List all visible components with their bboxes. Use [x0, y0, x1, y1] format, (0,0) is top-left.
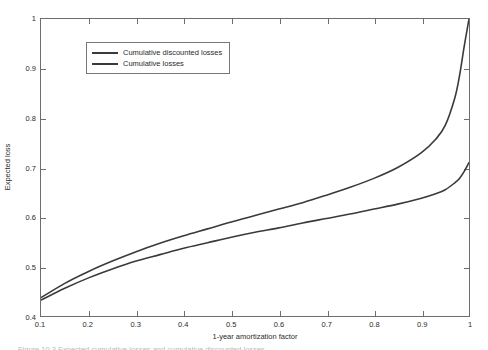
- x-tick-label: 0.8: [369, 320, 379, 329]
- legend: Cumulative discounted losses Cumulative …: [86, 42, 230, 74]
- figure-canvas: Expected loss 1-year amortization factor…: [0, 0, 488, 350]
- x-tick-label: 0.9: [417, 320, 427, 329]
- caption-text: Figure 10.3 Expected cumulative losses a…: [0, 345, 488, 350]
- x-axis-title: 1-year amortization factor: [212, 332, 297, 341]
- x-tick-label: 0.2: [83, 320, 93, 329]
- y-tick-label: 0.9: [26, 63, 36, 72]
- plot-area: Cumulative discounted losses Cumulative …: [40, 18, 470, 317]
- series-line-cumulative-losses: [41, 163, 469, 301]
- legend-entry: Cumulative losses: [92, 58, 222, 69]
- x-tick-label: 0.3: [130, 320, 140, 329]
- legend-label: Cumulative losses: [123, 59, 184, 69]
- legend-label: Cumulative discounted losses: [123, 48, 222, 58]
- y-tick-label: 1: [32, 14, 36, 23]
- y-tick-label: 0.5: [26, 263, 36, 272]
- legend-swatch-icon: [92, 63, 118, 65]
- x-tick-label: 0.6: [274, 320, 284, 329]
- x-tick-label: 0.4: [178, 320, 188, 329]
- x-tick-label: 0.7: [321, 320, 331, 329]
- y-tick-label: 0.6: [26, 213, 36, 222]
- caption-sliver: Figure 10.3 Expected cumulative losses a…: [0, 345, 488, 350]
- x-tick-label: 0.5: [226, 320, 236, 329]
- x-tick-label: 1: [468, 320, 472, 329]
- y-axis-title: Expected loss: [3, 144, 12, 191]
- y-tick-label: 0.8: [26, 113, 36, 122]
- legend-entry: Cumulative discounted losses: [92, 47, 222, 58]
- y-tick-label: 0.7: [26, 163, 36, 172]
- legend-swatch-icon: [92, 52, 118, 54]
- x-tick-label: 0.1: [35, 320, 45, 329]
